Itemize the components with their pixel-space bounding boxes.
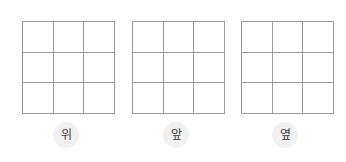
label-halo: 위 (53, 122, 79, 148)
grid-front[interactable] (132, 21, 225, 114)
view-label-text: 앞 (171, 129, 182, 141)
grid-cell[interactable] (54, 83, 85, 114)
grid-cell[interactable] (84, 83, 115, 114)
grid-cell[interactable] (133, 53, 164, 84)
grid-cell[interactable] (303, 83, 334, 114)
grid-cell[interactable] (54, 22, 85, 53)
view-group-side: 옆 (230, 0, 340, 162)
view-label-text: 옆 (280, 129, 291, 141)
grid-cell[interactable] (273, 83, 304, 114)
view-label-side: 옆 (230, 120, 340, 150)
grid-side[interactable] (241, 21, 334, 114)
grid-cell[interactable] (303, 53, 334, 84)
grid-cell[interactable] (194, 83, 225, 114)
view-label-front: 앞 (121, 120, 231, 150)
grid-cell[interactable] (23, 53, 54, 84)
grid-cell[interactable] (242, 22, 273, 53)
grid-cell[interactable] (23, 83, 54, 114)
view-group-top: 위 (11, 0, 121, 162)
view-group-front: 앞 (121, 0, 231, 162)
grid-cell[interactable] (133, 83, 164, 114)
grid-cell[interactable] (303, 22, 334, 53)
label-halo: 앞 (163, 122, 189, 148)
grid-cell[interactable] (164, 22, 195, 53)
grid-cell[interactable] (242, 53, 273, 84)
grid-cell[interactable] (133, 22, 164, 53)
grid-cell[interactable] (273, 53, 304, 84)
grid-cell[interactable] (194, 53, 225, 84)
view-label-text: 위 (61, 129, 72, 141)
grid-cell[interactable] (242, 83, 273, 114)
grid-cell[interactable] (164, 83, 195, 114)
view-label-top: 위 (11, 120, 121, 150)
label-halo: 옆 (272, 122, 298, 148)
grid-top[interactable] (22, 21, 115, 114)
grid-cell[interactable] (84, 22, 115, 53)
grid-cell[interactable] (23, 22, 54, 53)
grid-cell[interactable] (273, 22, 304, 53)
grid-cell[interactable] (164, 53, 195, 84)
grid-cell[interactable] (54, 53, 85, 84)
worksheet-canvas: 위 앞 (0, 0, 346, 162)
grid-cell[interactable] (84, 53, 115, 84)
grid-cell[interactable] (194, 22, 225, 53)
